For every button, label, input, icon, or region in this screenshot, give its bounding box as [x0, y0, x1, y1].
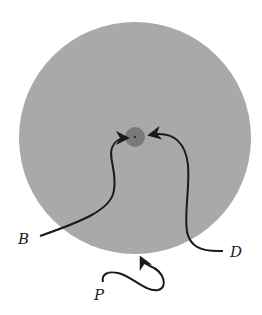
arrow-p-curve	[103, 258, 164, 290]
label-p: P	[93, 286, 105, 304]
label-b: B	[17, 230, 29, 248]
diagram-canvas: B D P	[0, 0, 262, 315]
center-dot	[134, 136, 136, 138]
label-d: D	[229, 243, 242, 261]
